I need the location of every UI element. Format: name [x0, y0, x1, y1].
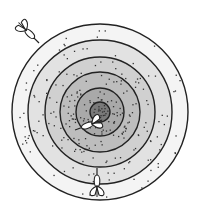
- dart-missed-top-left: [14, 18, 44, 48]
- dartboard: [0, 0, 202, 217]
- dartboard-scene: [0, 0, 202, 217]
